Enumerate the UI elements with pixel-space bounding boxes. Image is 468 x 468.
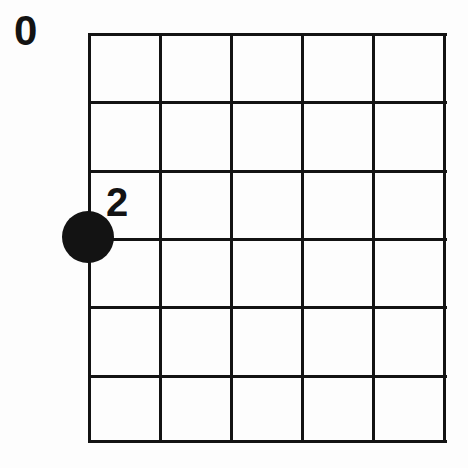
finger-number-label: 2 xyxy=(106,182,128,222)
fret-line-3 xyxy=(88,238,447,241)
fretboard-grid xyxy=(88,33,444,443)
fret-line-1 xyxy=(88,101,447,104)
open-string-label: 0 xyxy=(14,10,37,52)
fret-line-4 xyxy=(88,306,447,309)
fret-line-2 xyxy=(88,170,447,173)
fret-line-5 xyxy=(88,375,447,378)
fret-line-0-nut xyxy=(88,33,447,36)
fret-line-6 xyxy=(88,440,447,443)
chord-diagram-canvas: 0 2 xyxy=(0,0,468,468)
